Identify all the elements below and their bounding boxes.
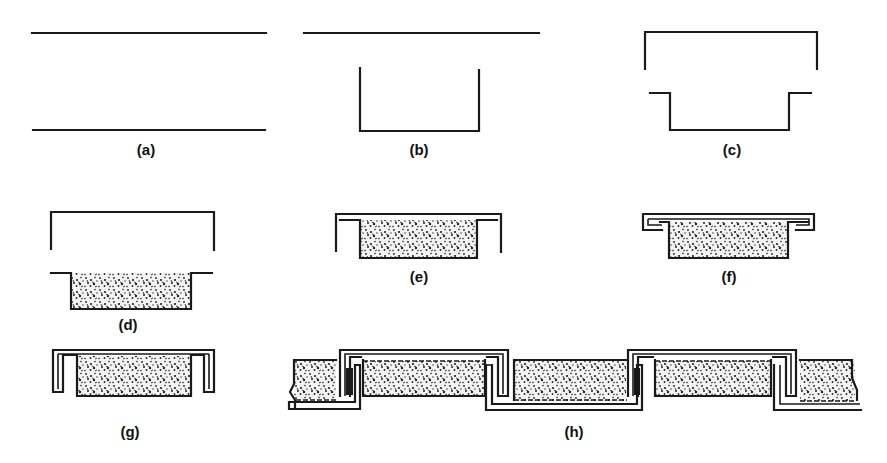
u-channel: [360, 68, 479, 131]
label-h: (h): [564, 423, 583, 440]
granular-fill: [77, 356, 191, 396]
flanged-channel: [650, 93, 811, 130]
inverted-u-cap: [51, 212, 214, 250]
panel-g: (g): [53, 350, 214, 440]
granular-block-4: [655, 361, 771, 397]
cap-2-left-hook: [638, 357, 653, 396]
panel-b: (b): [304, 33, 539, 158]
label-f: (f): [722, 268, 737, 285]
label-e: (e): [410, 268, 428, 285]
seam-fill-1: [346, 368, 353, 395]
panel-e: (e): [336, 214, 501, 285]
panel-c: (c): [645, 32, 817, 158]
granular-fill: [71, 273, 191, 309]
label-g: (g): [120, 423, 139, 440]
panel-a: (a): [32, 33, 266, 158]
panel-f: (f): [643, 214, 814, 285]
diagram-canvas: (a) (b) (c) (d) (e) (f): [0, 0, 887, 463]
granular-block-3: [514, 361, 626, 401]
label-a: (a): [137, 141, 155, 158]
granular-block-1: [294, 361, 336, 399]
label-b: (b): [409, 141, 428, 158]
inverted-u-cap: [645, 32, 817, 69]
granular-block-2: [363, 361, 485, 397]
label-c: (c): [723, 141, 741, 158]
granular-fill: [669, 222, 788, 258]
panel-d: (d): [51, 212, 214, 333]
label-d: (d): [118, 316, 137, 333]
panel-h: (h): [289, 350, 861, 440]
granular-fill: [360, 220, 477, 258]
granular-block-5: [800, 361, 855, 401]
